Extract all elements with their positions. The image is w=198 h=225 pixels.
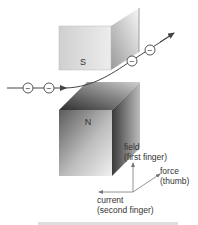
electron-2: − xyxy=(44,83,54,93)
field-sublabel: (first finger) xyxy=(124,152,167,162)
force-axis-arrow xyxy=(133,174,160,192)
current-label: current xyxy=(97,195,124,205)
svg-text:−: − xyxy=(130,56,135,66)
left-hand-rule-diagram: S N − − − − field ( xyxy=(0,0,198,225)
south-pole-label: S xyxy=(80,57,86,67)
current-sublabel: (second finger) xyxy=(97,205,154,215)
electron-3: − xyxy=(127,56,137,66)
electron-4: − xyxy=(145,45,155,55)
force-label: force xyxy=(160,166,179,176)
north-pole-label: N xyxy=(85,117,92,127)
electron-1: − xyxy=(23,83,33,93)
field-label: field xyxy=(124,142,140,152)
svg-text:−: − xyxy=(26,83,31,93)
caption-cutoff xyxy=(38,222,178,225)
svg-text:−: − xyxy=(47,83,52,93)
svg-text:−: − xyxy=(148,45,153,55)
force-sublabel: (thumb) xyxy=(160,176,189,186)
